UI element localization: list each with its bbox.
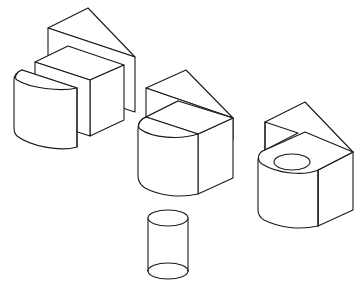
right-rounded-block	[258, 132, 353, 228]
middle-composite	[138, 70, 233, 196]
right-block-hole	[274, 154, 310, 170]
bottom-cylinder	[148, 210, 188, 279]
middle-rounded-block	[138, 101, 233, 196]
cylinder-top	[148, 210, 188, 226]
right-composite	[258, 102, 353, 228]
isometric-solids-drawing	[0, 0, 363, 290]
left-composite	[14, 8, 135, 149]
figure-canvas	[0, 0, 363, 290]
